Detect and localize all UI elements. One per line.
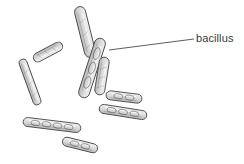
bacillus-chain-lower-right [99, 104, 148, 120]
bacillus-illustration-figure: bacillus [0, 0, 244, 164]
bacillus-chain-bottom [61, 136, 98, 153]
illustration-canvas [0, 0, 244, 164]
bacillus-chain-mid-right [106, 90, 143, 103]
leader-line-layer [109, 39, 194, 50]
bacillus-rod-upper-left [32, 41, 64, 64]
bacillus-rod-left-long [18, 58, 42, 106]
bacillus-chain-lower-left [23, 117, 82, 133]
bacillus-leader-line [109, 39, 194, 50]
bacillus-label: bacillus [196, 32, 234, 44]
organisms-layer [18, 5, 147, 153]
